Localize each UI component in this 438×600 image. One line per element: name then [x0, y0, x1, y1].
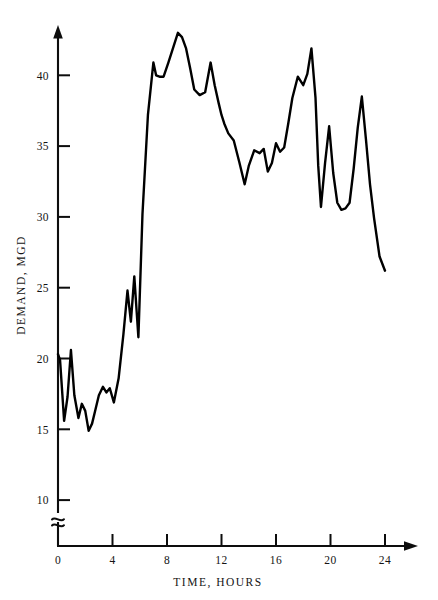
y-tick-marks	[58, 75, 70, 500]
x-tick-label-8: 8	[164, 554, 170, 566]
x-tick-marks	[58, 534, 385, 546]
demand-series-line	[58, 33, 385, 431]
axis-break-icon	[52, 518, 64, 520]
x-tick-label-12: 12	[215, 554, 227, 566]
y-tick-label-25: 25	[37, 282, 49, 294]
y-tick-label-15: 15	[37, 424, 49, 436]
x-tick-label-4: 4	[109, 554, 115, 566]
x-axis-arrow-icon	[404, 541, 418, 551]
y-tick-label-10: 10	[37, 494, 49, 506]
x-tick-label-24: 24	[379, 554, 391, 566]
y-tick-label-35: 35	[37, 140, 49, 152]
x-tick-label-16: 16	[270, 554, 282, 566]
y-tick-label-40: 40	[37, 70, 49, 82]
figure-container: 40 35 30 25 20 15 10 0 4 8 12 16 20 24 T…	[0, 0, 438, 600]
y-axis-title: DEMAND, MGD	[15, 235, 28, 335]
y-tick-label-20: 20	[37, 353, 49, 365]
x-tick-label-20: 20	[324, 554, 336, 566]
y-tick-label-30: 30	[37, 211, 49, 223]
y-axis-arrow-icon	[53, 25, 63, 39]
x-axis-title: TIME, HOURS	[173, 576, 262, 589]
demand-vs-time-line-chart: 40 35 30 25 20 15 10 0 4 8 12 16 20 24 T…	[0, 0, 438, 600]
x-tick-label-0: 0	[55, 554, 61, 566]
axis-break-icon-second	[52, 524, 64, 526]
